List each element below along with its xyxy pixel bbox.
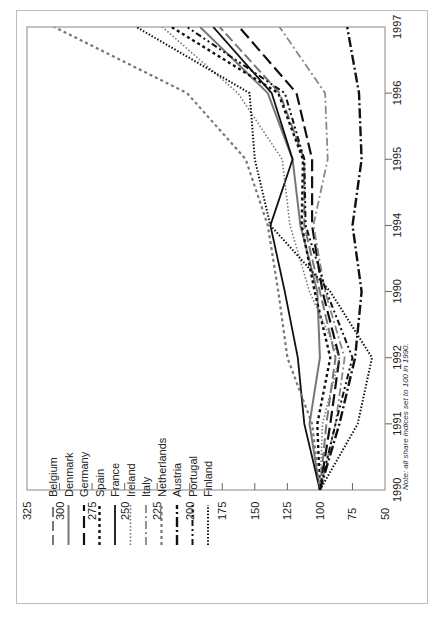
series-line-spain: [172, 27, 331, 490]
series-lines: [54, 27, 372, 490]
value-tick-label: 100: [314, 502, 326, 520]
value-tick-label: 325: [21, 502, 33, 520]
legend-label-netherlands: Netherlands: [156, 437, 168, 497]
series-line-italy: [280, 27, 345, 490]
legend-label-ireland: Ireland: [125, 463, 137, 497]
value-tick-label: 175: [216, 502, 228, 520]
legend-label-germany: Germany: [78, 451, 90, 497]
value-tick-label: 150: [249, 502, 261, 520]
year-tick-label: 1995: [391, 147, 403, 171]
legend: BelgiumDenmarkGermanySpainFranceIrelandI…: [47, 437, 214, 545]
series-line-austria: [320, 27, 362, 490]
legend-label-belgium: Belgium: [47, 457, 59, 497]
legend-label-france: France: [109, 463, 121, 497]
value-tick-label: 300: [54, 502, 66, 520]
series-line-ireland: [162, 27, 339, 490]
value-tick-label: 225: [151, 502, 163, 520]
year-tick-label: 1996: [391, 81, 403, 105]
chart-note: Note: all share indices set to 100 in 19…: [401, 343, 410, 490]
legend-label-austria: Austria: [171, 462, 183, 497]
year-tick-label: 1997: [391, 15, 403, 39]
value-tick-label: 50: [379, 508, 391, 520]
series-line-denmark: [200, 27, 320, 490]
value-tick-label: 75: [346, 508, 358, 520]
legend-label-finland: Finland: [202, 461, 214, 497]
legend-label-spain: Spain: [94, 469, 106, 497]
legend-label-italy: Italy: [140, 476, 152, 497]
value-tick-label: 125: [281, 502, 293, 520]
value-tick-label: 200: [184, 502, 196, 520]
year-tick-label: 1994: [391, 213, 403, 237]
legend-label-portugal: Portugal: [187, 456, 199, 497]
value-tick-label: 275: [86, 502, 98, 520]
value-tick-label: 250: [119, 502, 131, 520]
series-line-france: [213, 27, 320, 490]
year-tick-label: 1990: [391, 279, 403, 303]
line-chart: 5075100125150175200225250275300325 19901…: [0, 0, 436, 620]
legend-label-denmark: Denmark: [63, 452, 75, 497]
